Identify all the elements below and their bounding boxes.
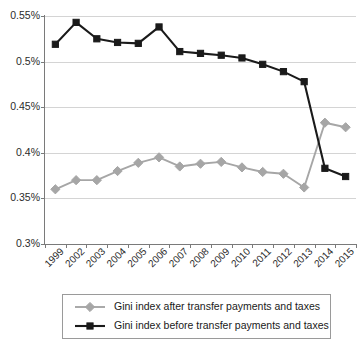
data-point-marker — [341, 123, 350, 132]
data-point-marker — [71, 176, 80, 185]
x-axis-tick-label: 2012 — [270, 245, 294, 269]
data-point-marker — [301, 79, 307, 85]
data-point-marker — [260, 61, 266, 67]
data-point-marker — [239, 55, 245, 61]
data-point-marker — [320, 118, 329, 127]
x-axis-tick-label: 2011 — [250, 245, 273, 268]
x-axis-tick-label: 2006 — [146, 245, 170, 269]
x-axis-tick-label: 2002 — [63, 245, 87, 269]
chart-canvas: 0.55%0.5%0.45%0.4%0.35%0.3% 199920022003… — [0, 0, 363, 346]
legend: Gini index after transfer payments and t… — [63, 295, 331, 339]
x-axis-tick-label: 1999 — [42, 245, 66, 269]
data-point-marker — [217, 157, 226, 166]
x-axis-tick-label: 2013 — [291, 245, 315, 269]
y-axis-tick-label: 0.3% — [16, 237, 40, 249]
y-axis-tick-label: 0.35% — [10, 191, 40, 203]
data-point-marker — [73, 19, 79, 25]
data-point-marker — [322, 165, 328, 171]
series-line-after-transfers — [51, 118, 350, 194]
data-point-marker — [218, 52, 224, 58]
x-axis-tick-label: 2010 — [229, 245, 253, 269]
x-axis-tick-label: 2007 — [167, 245, 191, 269]
data-point-marker — [94, 36, 100, 42]
data-point-marker — [175, 162, 184, 171]
data-point-marker — [154, 153, 163, 162]
data-point-marker — [197, 50, 203, 56]
y-axis-tick-label: 0.4% — [16, 146, 40, 158]
series-line-before-transfers — [52, 19, 348, 179]
data-point-marker — [280, 69, 286, 75]
x-axis-tick-label: 2003 — [84, 245, 108, 269]
y-axis-tick-labels: 0.55%0.5%0.45%0.4%0.35%0.3% — [10, 9, 40, 249]
data-point-marker — [87, 323, 93, 329]
y-axis-tick-label: 0.55% — [10, 9, 40, 21]
x-axis-tick-label: 2015 — [333, 245, 357, 269]
data-point-marker — [52, 41, 58, 47]
data-point-marker — [258, 167, 267, 176]
y-axis-tick-label: 0.5% — [16, 55, 40, 67]
data-point-marker — [114, 39, 120, 45]
data-point-marker — [134, 158, 143, 167]
legend-item-label: Gini index before transfer payments and … — [114, 319, 329, 331]
data-point-marker — [135, 40, 141, 46]
y-axis-tick-label: 0.45% — [10, 100, 40, 112]
data-point-marker — [343, 173, 349, 179]
data-point-marker — [177, 48, 183, 54]
data-point-marker — [156, 24, 162, 30]
data-point-marker — [92, 176, 101, 185]
data-point-marker — [51, 185, 60, 194]
legend-item-label: Gini index after transfer payments and t… — [114, 300, 320, 312]
x-axis-tick-label: 2014 — [312, 245, 336, 269]
data-point-marker — [113, 166, 122, 175]
data-point-marker — [196, 159, 205, 168]
gini-index-line-chart: 0.55%0.5%0.45%0.4%0.35%0.3% 199920022003… — [0, 0, 363, 346]
x-axis-tick-label: 2004 — [104, 245, 128, 269]
data-point-marker — [237, 163, 246, 172]
x-axis-tick-labels: 1999200220032004200520062007200820092010… — [42, 245, 356, 269]
x-axis-tick-label: 2005 — [125, 245, 149, 269]
x-axis-tick-label: 2008 — [187, 245, 211, 269]
x-axis-tick-label: 2009 — [208, 245, 232, 269]
